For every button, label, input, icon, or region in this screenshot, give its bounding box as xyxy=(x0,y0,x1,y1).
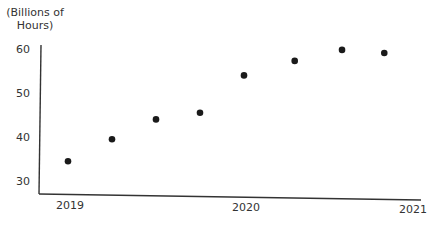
x-axis-line xyxy=(39,194,421,200)
data-point xyxy=(109,136,116,143)
x-tick-label: 2019 xyxy=(56,199,84,212)
x-tick-label: 2021 xyxy=(399,203,427,216)
y-tick-label: 50 xyxy=(16,87,30,100)
data-point xyxy=(197,110,204,117)
y-tick-labels: 30405060 xyxy=(16,43,30,188)
y-tick-label: 30 xyxy=(16,175,30,188)
data-point xyxy=(153,116,160,123)
data-point xyxy=(65,158,72,165)
y-tick-label: 40 xyxy=(16,131,30,144)
y-axis-line xyxy=(39,45,41,194)
data-point xyxy=(241,72,248,79)
data-point xyxy=(381,50,388,57)
data-points xyxy=(65,47,388,165)
x-tick-label: 2020 xyxy=(232,201,260,214)
data-point xyxy=(339,47,346,54)
y-tick-label: 60 xyxy=(16,43,30,56)
data-point xyxy=(291,58,298,65)
x-tick-labels: 201920202021 xyxy=(56,199,427,216)
scatter-chart: 30405060 201920202021 xyxy=(0,0,433,226)
